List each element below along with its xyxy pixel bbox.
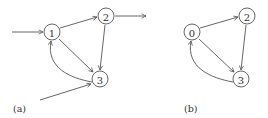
node-1-label: 1	[49, 28, 55, 39]
node-3b-label: 3	[238, 75, 244, 86]
edge-3-to-0	[190, 41, 233, 82]
edge-1-to-3	[59, 39, 93, 72]
edge-0-to-3	[199, 39, 234, 72]
graph-figure: 1 2 3 (a) 0 2 3 (b)	[0, 0, 268, 118]
node-2b-label: 2	[244, 12, 250, 23]
caption-a: (a)	[13, 103, 26, 114]
edge-1-to-2	[60, 17, 97, 28]
edge-0-to-2	[200, 17, 238, 28]
edge-2-to-3	[100, 25, 105, 70]
node-0-label: 0	[189, 28, 195, 39]
caption-b: (b)	[184, 103, 198, 114]
node-3-label: 3	[97, 75, 103, 86]
node-2-label: 2	[103, 12, 109, 23]
diagram-b: 0 2 3 (b)	[184, 8, 255, 114]
edge-input-to-3	[40, 84, 91, 100]
edge-2-to-3	[241, 25, 246, 70]
edge-3-to-1	[50, 41, 92, 82]
diagram-a: 1 2 3 (a)	[12, 8, 146, 114]
